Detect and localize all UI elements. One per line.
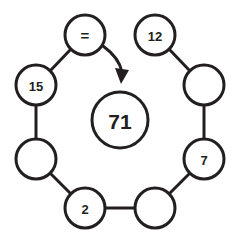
ring-node-right-circle[interactable] [184, 65, 224, 105]
arrow-head-icon [115, 68, 129, 84]
connector-bottom-right-to-bottom [169, 173, 190, 194]
ring-node-left-circle[interactable] [16, 139, 56, 179]
connector-bottom-left-to-left [50, 173, 71, 194]
center-node[interactable]: 71 [92, 92, 148, 148]
ring-node-top-label: = [81, 27, 90, 44]
connector-top-right-to-right [169, 49, 190, 71]
ring-node-right[interactable] [184, 65, 224, 105]
ring-node-top-right-label: 12 [148, 29, 162, 44]
ring-node-bottom[interactable] [135, 188, 175, 228]
ring-node-top-left[interactable]: 15 [16, 65, 56, 105]
equals-to-center-arrow [103, 46, 129, 84]
ring-node-left[interactable] [16, 139, 56, 179]
ring-node-top-right[interactable]: 12 [135, 15, 175, 55]
connector-top-left-to-top [50, 49, 71, 71]
circle-ring-diagram: Ring of circles with central value = 12 [0, 0, 241, 240]
ring-node-bottom-left[interactable]: 2 [65, 188, 105, 228]
ring-node-top[interactable]: = [65, 15, 105, 55]
ring-node-bottom-circle[interactable] [135, 188, 175, 228]
ring-node-bottom-right-label: 7 [200, 153, 207, 168]
ring-node-bottom-left-label: 2 [81, 202, 88, 217]
center-node-label: 71 [108, 110, 132, 133]
ring-node-top-left-label: 15 [29, 79, 43, 94]
ring-node-bottom-right[interactable]: 7 [184, 139, 224, 179]
arrow-curve [103, 46, 122, 72]
